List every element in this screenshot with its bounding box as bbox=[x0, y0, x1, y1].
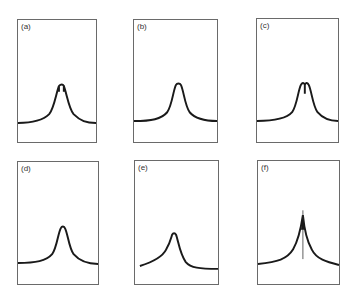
peak-curve bbox=[18, 20, 96, 142]
panel-d: (d) bbox=[17, 161, 99, 285]
figure: (a) (b) (c) (d) (e) (f) bbox=[0, 0, 356, 301]
panel-f: (f) bbox=[257, 160, 340, 285]
peak-curve bbox=[257, 19, 338, 142]
panel-c: (c) bbox=[256, 18, 339, 143]
panel-e: (e) bbox=[134, 160, 219, 285]
peak-curve bbox=[134, 20, 217, 142]
peak-curve bbox=[258, 161, 339, 284]
peak-curve bbox=[18, 162, 98, 284]
panel-a: (a) bbox=[17, 19, 97, 143]
peak-curve bbox=[135, 161, 218, 284]
panel-b: (b) bbox=[133, 19, 218, 143]
